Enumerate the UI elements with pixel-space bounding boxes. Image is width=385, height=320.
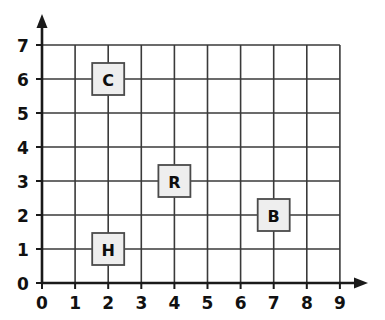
- data-point-markers: CRBH: [92, 63, 290, 265]
- plot-canvas: 0123456789 01234567 CRBH: [0, 0, 385, 320]
- marker-label: H: [102, 241, 115, 260]
- y-axis-tick-label: 6: [17, 70, 29, 90]
- x-axis-tick-label: 5: [202, 293, 214, 313]
- data-point-marker: R: [158, 165, 190, 197]
- data-point-marker: H: [92, 233, 124, 265]
- x-axis-tick-label: 2: [102, 293, 114, 313]
- x-axis-arrow-icon: [354, 278, 368, 289]
- x-axis-tick-label: 7: [268, 293, 280, 313]
- x-axis-tick-label: 0: [36, 293, 48, 313]
- x-axis-tick-label: 9: [334, 293, 346, 313]
- marker-label: R: [168, 173, 180, 192]
- x-axis-tick-label: 8: [301, 293, 313, 313]
- y-axis-tick-label: 1: [17, 240, 29, 260]
- y-axis-tick-label: 0: [17, 274, 29, 294]
- y-axis-tick-label: 7: [17, 36, 29, 56]
- y-axis-tick-label: 5: [17, 104, 29, 124]
- y-axis-tick-label: 2: [17, 206, 29, 226]
- grid-lines: [42, 45, 340, 283]
- x-axis-tick-label: 6: [235, 293, 247, 313]
- y-axis-arrow-icon: [37, 14, 48, 28]
- x-axis-tick-label: 4: [168, 293, 180, 313]
- coordinate-grid-figure: 0123456789 01234567 CRBH: [0, 0, 385, 320]
- y-axis-tick-label: 3: [17, 172, 29, 192]
- axes: [37, 14, 369, 289]
- x-axis-tick-label: 1: [69, 293, 81, 313]
- data-point-marker: B: [258, 199, 290, 231]
- y-axis-ticks: 01234567: [17, 36, 42, 294]
- marker-label: C: [102, 71, 114, 90]
- marker-label: B: [268, 207, 280, 226]
- y-axis-tick-label: 4: [17, 138, 29, 158]
- data-point-marker: C: [92, 63, 124, 95]
- x-axis-ticks: 0123456789: [36, 283, 346, 313]
- x-axis-tick-label: 3: [135, 293, 147, 313]
